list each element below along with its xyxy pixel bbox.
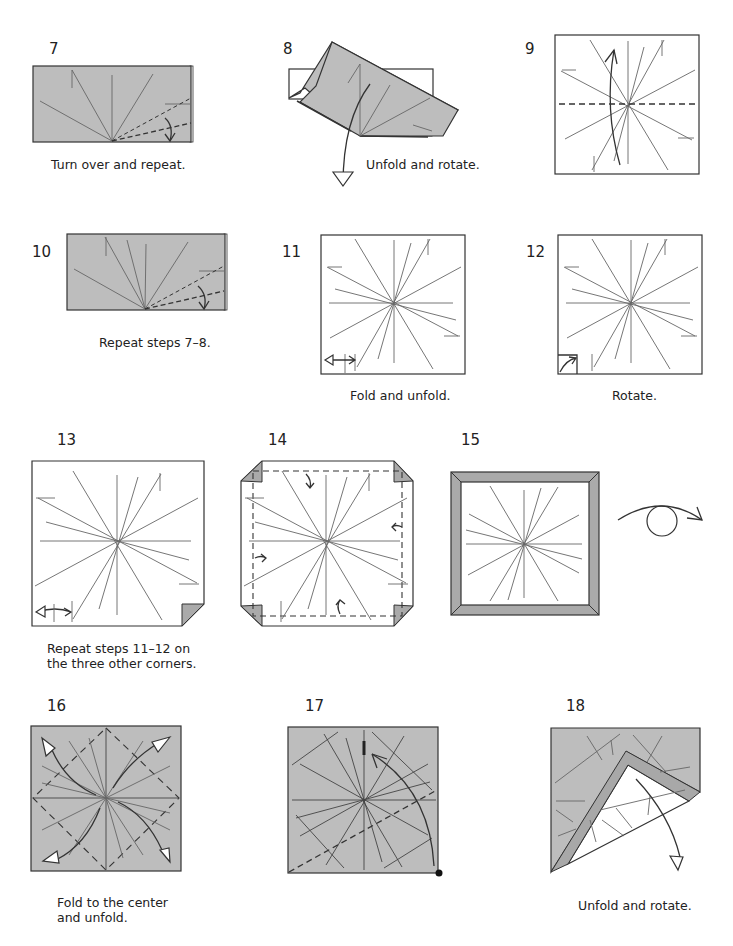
step-18-caption: Unfold and rotate. <box>578 898 692 913</box>
step-18-diagram <box>0 0 733 946</box>
